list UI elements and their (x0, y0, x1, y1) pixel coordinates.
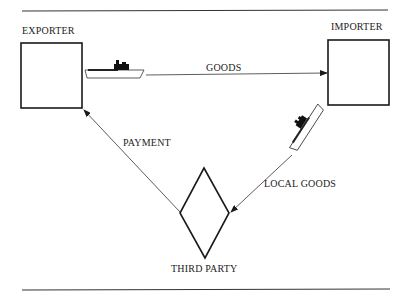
top-rule (22, 10, 388, 11)
goods-arrow (146, 73, 327, 75)
bottom-rule (22, 289, 390, 290)
payment-arrow (84, 110, 180, 212)
ship-icon (281, 99, 324, 152)
third-party-label: THIRD PARTY (171, 263, 238, 274)
exporter-box (21, 43, 82, 108)
payment-label: PAYMENT (123, 137, 171, 148)
trade-diagram (0, 0, 409, 300)
importer-label: IMPORTER (331, 21, 383, 32)
exporter-label: EXPORTER (22, 25, 75, 36)
third-party-diamond (180, 168, 229, 258)
goods-label: GOODS (206, 62, 241, 73)
ship-icon (85, 60, 144, 78)
local-goods-label: LOCAL GOODS (264, 178, 336, 189)
importer-box (328, 40, 389, 105)
